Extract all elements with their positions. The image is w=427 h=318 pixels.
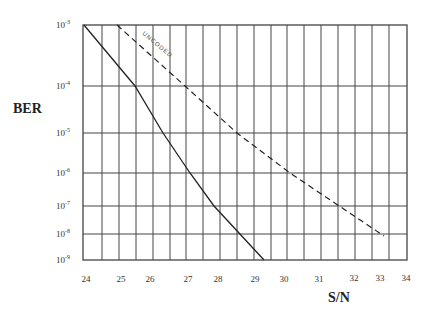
uncoded-label: UNCODED bbox=[141, 30, 173, 59]
uncoded-curve bbox=[117, 25, 384, 236]
y-axis-title: BER bbox=[13, 101, 43, 116]
plot-grid bbox=[83, 25, 407, 260]
svg-text:10-4: 10-4 bbox=[56, 80, 70, 91]
svg-text:10-7: 10-7 bbox=[56, 200, 70, 211]
svg-text:24: 24 bbox=[82, 274, 92, 284]
ber-chart: UNCODED 10-3 10-4 10-5 10-6 10-7 10-8 10… bbox=[0, 0, 427, 318]
svg-text:10-9: 10-9 bbox=[56, 254, 70, 265]
svg-text:26: 26 bbox=[146, 274, 156, 284]
svg-text:34: 34 bbox=[402, 273, 412, 283]
y-tick-labels: 10-3 10-4 10-5 10-6 10-7 10-8 10-9 bbox=[56, 19, 70, 265]
svg-text:29: 29 bbox=[251, 274, 261, 284]
svg-text:32: 32 bbox=[350, 273, 359, 283]
svg-text:10-5: 10-5 bbox=[56, 127, 70, 138]
svg-text:10-3: 10-3 bbox=[56, 19, 70, 30]
svg-text:33: 33 bbox=[376, 273, 386, 283]
svg-text:25: 25 bbox=[117, 274, 127, 284]
x-axis-title: S/N bbox=[328, 290, 350, 305]
svg-text:27: 27 bbox=[184, 274, 194, 284]
svg-text:30: 30 bbox=[280, 274, 290, 284]
svg-text:31: 31 bbox=[315, 274, 324, 284]
svg-text:10-6: 10-6 bbox=[56, 167, 70, 178]
x-tick-labels: 24 25 26 27 28 29 30 31 32 33 34 bbox=[82, 273, 412, 284]
svg-text:28: 28 bbox=[214, 274, 224, 284]
svg-text:10-8: 10-8 bbox=[56, 228, 70, 239]
